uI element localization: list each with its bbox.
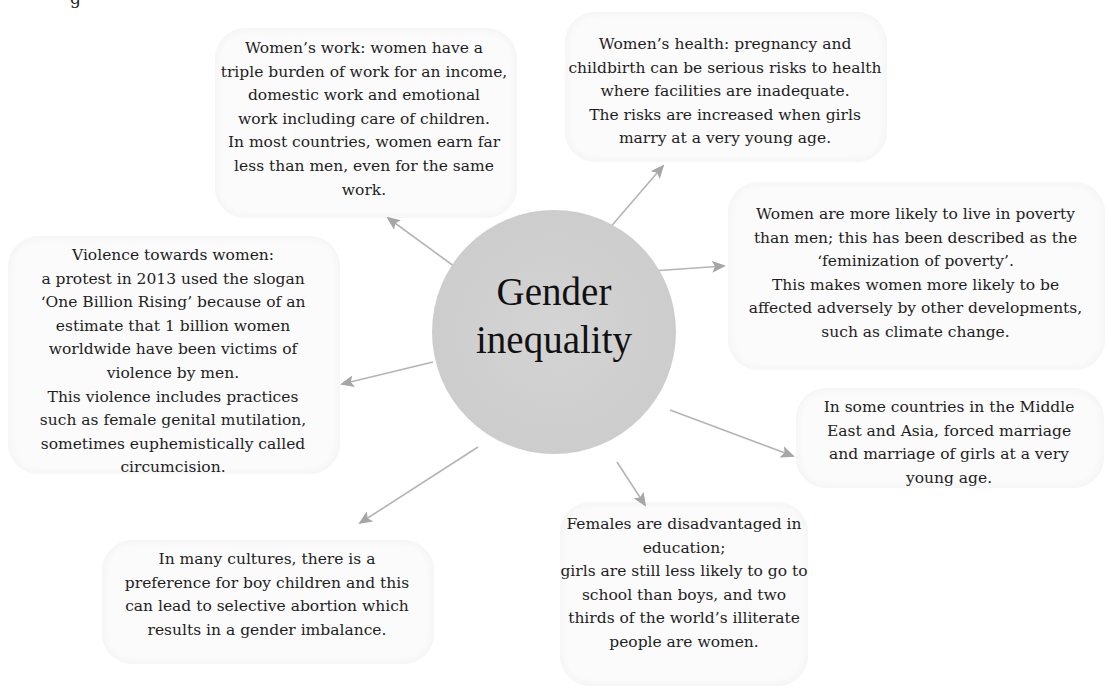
node-boy-preference: In many cultures, there is a preference … bbox=[102, 548, 432, 642]
node-education: Females are disadvantaged in education; … bbox=[544, 513, 824, 655]
central-node-circle: Gender inequality bbox=[432, 210, 676, 454]
node-womens-health: Women’s health: pregnancy and childbirth… bbox=[565, 33, 885, 151]
node-womens-work: Women’s work: women have a triple burden… bbox=[218, 37, 510, 202]
arrow-to-violence bbox=[342, 362, 433, 384]
arrow-to-education bbox=[617, 462, 645, 505]
node-forced-marriage: In some countries in the Middle East and… bbox=[796, 396, 1102, 490]
node-violence: Violence towards women: a protest in 201… bbox=[8, 244, 338, 480]
central-node-label: Gender inequality bbox=[432, 268, 676, 364]
node-poverty: Women are more likely to live in poverty… bbox=[728, 203, 1103, 345]
arrow-to-work bbox=[388, 218, 462, 272]
arrow-to-marriage bbox=[670, 410, 793, 456]
arrow-to-boy-preference bbox=[360, 447, 478, 523]
